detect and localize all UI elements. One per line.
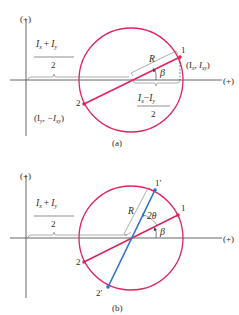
point-1-marker (176, 213, 180, 217)
svg-text:Ix+Iy: Ix+Iy (35, 39, 57, 50)
point-2p-marker (106, 285, 110, 289)
svg-text:2: 2 (151, 109, 156, 119)
point-2-label: 2 (76, 98, 81, 108)
mohr-circle-figure: (+) (+) Ix+Iy 2 R β Ix−Iy (0, 0, 239, 315)
figure-b: (+) (+) Ix+Iy 2 R 2θ β 1 2 1′ 2 (10, 171, 234, 313)
radius-label: R (127, 206, 134, 216)
svg-text:Ix−Iy: Ix−Iy (137, 93, 155, 104)
x-axis-plus-label: (+) (223, 234, 234, 244)
center-offset-label: Ix+Iy 2 (34, 39, 74, 70)
diameter-1-2 (84, 57, 180, 104)
caption-a: (a) (112, 138, 122, 148)
svg-text:2: 2 (51, 60, 56, 70)
center-offset-label: Ix+Iy 2 (34, 198, 74, 229)
radius-label: R (148, 54, 155, 64)
point-2-marker (82, 102, 86, 106)
beta-label: β (159, 226, 165, 237)
point-1-coords: (Ix, Ixy) (186, 60, 210, 71)
half-diff-brace (133, 80, 180, 86)
half-diff-label: Ix−Iy 2 (137, 93, 170, 119)
point-1-label: 1 (181, 45, 186, 55)
beta-label: β (159, 67, 165, 78)
point-2p-label: 2′ (96, 288, 103, 298)
y-axis-plus-label: (+) (20, 14, 31, 24)
point-2-label: 2 (76, 257, 81, 267)
y-axis-plus-label: (+) (20, 171, 31, 181)
point-2-coords: (Iy, −Ixy) (34, 113, 64, 124)
point-1p-label: 1′ (155, 178, 162, 188)
svg-text:Ix+Iy: Ix+Iy (35, 198, 57, 209)
point-1-label: 1 (181, 203, 186, 213)
beta-arrowhead (154, 227, 157, 231)
caption-b: (b) (112, 303, 123, 313)
two-theta-label: 2θ (147, 211, 157, 221)
point-2-marker (82, 260, 86, 264)
svg-text:2: 2 (51, 219, 56, 229)
diameter-1p-2p (108, 190, 155, 287)
figure-a: (+) (+) Ix+Iy 2 R β Ix−Iy (10, 14, 234, 148)
x-axis-plus-label: (+) (223, 76, 234, 86)
mohr-circle-svg: (+) (+) Ix+Iy 2 R β Ix−Iy (0, 0, 239, 315)
point-1p-marker (153, 188, 157, 192)
